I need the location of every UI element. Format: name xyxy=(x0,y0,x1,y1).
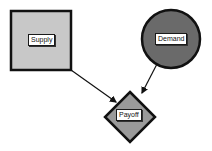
diagram-canvas: Supply Demand Payoff xyxy=(0,0,212,151)
edge-demand-to-payoff[interactable] xyxy=(142,64,157,93)
payoff-label: Payoff xyxy=(116,109,142,121)
edge-supply-to-payoff[interactable] xyxy=(71,70,116,102)
diagram-svg xyxy=(0,0,212,151)
supply-label: Supply xyxy=(28,34,55,46)
demand-label: Demand xyxy=(155,33,187,45)
